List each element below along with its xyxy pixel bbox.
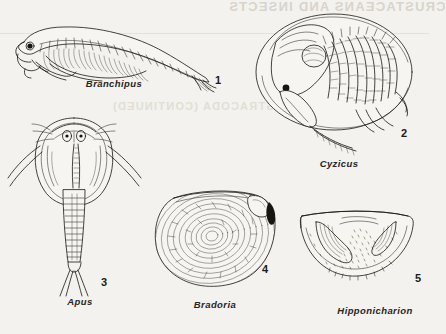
figure-bradoria: 4 <box>152 186 280 298</box>
figure-number-1: 1 <box>215 74 221 86</box>
figure-caption-bradoria: Bradoria <box>194 299 236 310</box>
cyzicus-illustration <box>248 6 426 156</box>
figure-number-3: 3 <box>101 276 107 288</box>
figure-number-4: 4 <box>262 263 268 275</box>
figure-caption-apus: Apus <box>67 296 92 307</box>
apus-illustration <box>8 112 143 297</box>
figure-caption-branchipus: Branchipus <box>86 78 142 89</box>
figure-number-2: 2 <box>401 127 407 139</box>
figure-hipponicharion: 5 <box>296 206 426 290</box>
figure-caption-hipponicharion: Hipponicharion <box>337 305 412 316</box>
figure-number-5: 5 <box>415 272 421 284</box>
figure-caption-cyzicus: Cyzicus <box>320 158 359 169</box>
bradoria-illustration <box>152 186 280 298</box>
hipponicharion-illustration <box>296 206 426 290</box>
figure-apus: 3 <box>8 112 143 297</box>
figure-cyzicus: 2 <box>248 6 426 156</box>
